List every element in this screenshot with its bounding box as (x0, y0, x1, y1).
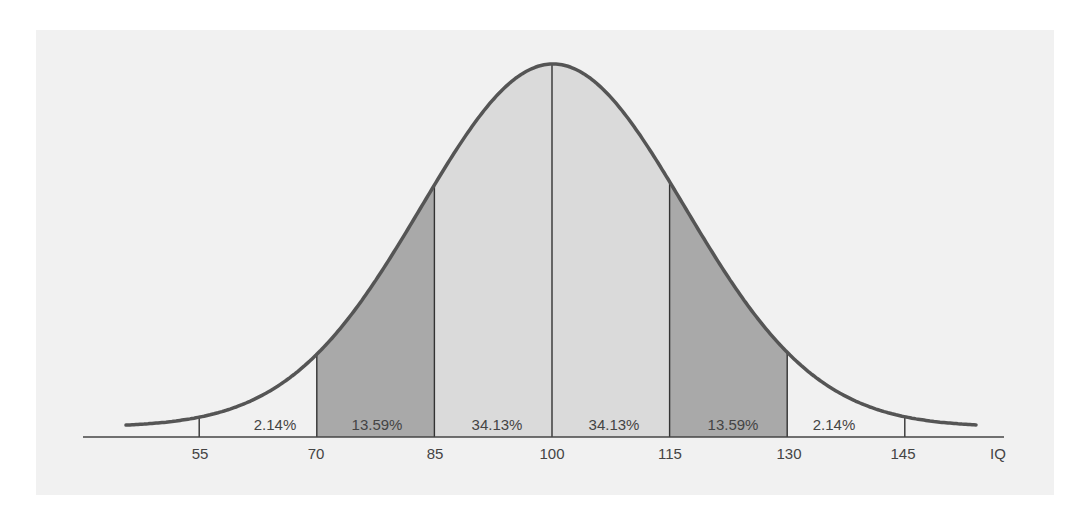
tick-label-55: 55 (192, 445, 209, 462)
segment-dividers (199, 64, 905, 437)
pct-label-55-70: 2.14% (254, 416, 297, 433)
tick-label-85: 85 (427, 445, 444, 462)
area-segment-115-130 (670, 182, 788, 437)
pct-label-115-130: 13.59% (708, 416, 759, 433)
area-segment-85-100 (434, 64, 552, 437)
tick-label-70: 70 (308, 445, 325, 462)
tick-label-115: 115 (658, 445, 682, 462)
x-axis-title: IQ (990, 445, 1006, 462)
tick-label-100: 100 (539, 445, 564, 462)
pct-label-100-115: 34.13% (589, 416, 640, 433)
pct-label-70-85: 13.59% (352, 416, 403, 433)
area-segment-70-85 (317, 185, 435, 437)
iq-normal-distribution-chart: 2.14% 13.59% 34.13% 34.13% 13.59% 2.14% … (0, 0, 1087, 505)
area-segment-100-115 (552, 64, 670, 437)
pct-label-130-145: 2.14% (813, 416, 856, 433)
tick-label-145: 145 (890, 445, 915, 462)
pct-label-85-100: 34.13% (472, 416, 523, 433)
tick-label-130: 130 (776, 445, 801, 462)
